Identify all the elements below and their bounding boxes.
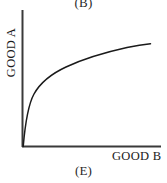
figure-panel: (B) GOOD A GOOD B (E) xyxy=(0,0,167,183)
y-axis-title: GOOD A xyxy=(5,21,18,85)
indifference-curve xyxy=(23,44,150,147)
panel-caption-bottom: (E) xyxy=(0,164,167,177)
x-axis-title: GOOD B xyxy=(112,150,161,163)
